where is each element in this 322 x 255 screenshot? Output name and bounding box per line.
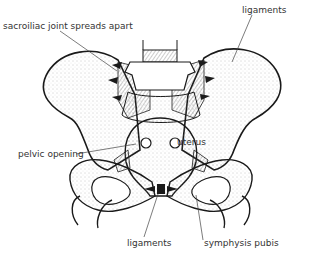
vertebra <box>143 50 177 62</box>
label-uterus: uterus <box>177 137 206 147</box>
label-pelvic-opening: pelvic opening <box>18 149 84 159</box>
pelvis-illustration <box>0 0 322 255</box>
label-ligaments-bottom: ligaments <box>127 238 171 248</box>
label-symphysis-pubis: symphysis pubis <box>204 238 279 248</box>
symphysis-joint <box>157 184 165 194</box>
label-ligaments-top: ligaments <box>242 5 286 15</box>
left-ovary <box>141 138 151 148</box>
label-sacroiliac-joint: sacroiliac joint spreads apart <box>3 21 133 31</box>
